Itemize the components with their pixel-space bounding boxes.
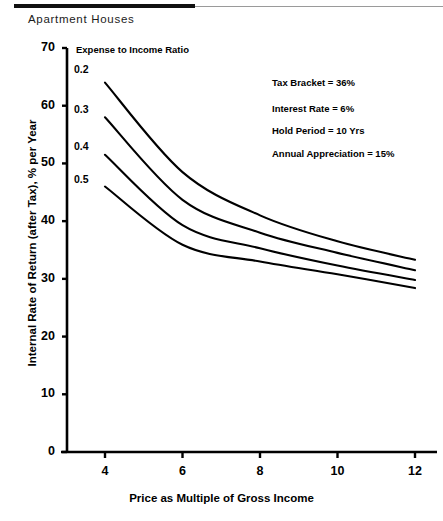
legend-title: Expense to Income Ratio (76, 44, 189, 55)
y-tick-label: 40 (15, 213, 55, 227)
series-line-0.5 (105, 187, 415, 289)
x-tick-label: 12 (395, 464, 435, 478)
y-tick-label: 50 (15, 155, 55, 169)
chart-page: Apartment Houses Internal Rate of Return… (0, 0, 443, 521)
x-axis-title: Price as Multiple of Gross Income (0, 492, 443, 504)
chart-plot-area: Internal Rate of Return (after Tax), % p… (0, 0, 443, 521)
axis-lines (61, 48, 437, 452)
annotation-line: Annual Appreciation = 15% (272, 148, 394, 159)
y-tick-label: 60 (15, 98, 55, 112)
y-tick-label: 10 (15, 386, 55, 400)
x-tick-label: 10 (318, 464, 358, 478)
series-label-0.3: 0.3 (74, 103, 106, 115)
y-tick-label: 0 (15, 444, 55, 458)
x-tick-label: 8 (240, 464, 280, 478)
series-label-0.2: 0.2 (74, 63, 106, 75)
x-tick-label: 6 (163, 464, 203, 478)
x-tick-label: 4 (85, 464, 125, 478)
y-tick-label: 30 (15, 271, 55, 285)
annotation-line: Hold Period = 10 Yrs (272, 125, 365, 136)
y-axis-title: Internal Rate of Return (after Tax), % p… (26, 93, 38, 393)
series-label-0.4: 0.4 (74, 140, 106, 152)
series-label-0.5: 0.5 (74, 173, 106, 185)
annotation-line: Interest Rate = 6% (272, 103, 354, 114)
y-tick-label: 20 (15, 329, 55, 343)
y-tick-label: 70 (15, 40, 55, 54)
data-series-group (105, 83, 415, 288)
annotation-line: Tax Bracket = 36% (272, 77, 355, 88)
chart-svg (0, 0, 443, 521)
